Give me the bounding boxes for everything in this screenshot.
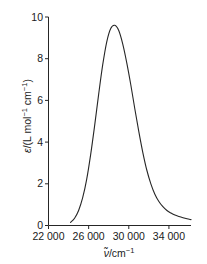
axis-lines [49, 17, 192, 226]
x-tick-label: 34 000 [143, 231, 195, 242]
absorption-curve [71, 25, 191, 222]
y-axis-symbol: ε [21, 148, 33, 153]
y-axis-exponent-1: −1 [20, 108, 29, 117]
spectrum-figure: 0246810 22 00026 00030 00034 000 ε/(L mo… [0, 0, 207, 264]
x-tick-marks [49, 226, 169, 230]
y-tick-label: 10 [21, 12, 43, 23]
y-axis-title: ε/(L mol−1 cm−1) [21, 41, 33, 191]
y-tick-label: 0 [21, 220, 43, 231]
y-axis-exponent-2: −1 [20, 83, 29, 92]
y-axis-units-b: cm [21, 91, 33, 108]
x-axis-exponent: −1 [126, 246, 135, 255]
x-axis-title: ν̃/cm−1 [48, 247, 190, 259]
y-axis-units-a: /(L mol [21, 117, 33, 149]
x-axis-units: /cm [109, 247, 126, 259]
y-tick-marks [45, 17, 49, 226]
y-axis-units-close: ) [21, 79, 33, 83]
